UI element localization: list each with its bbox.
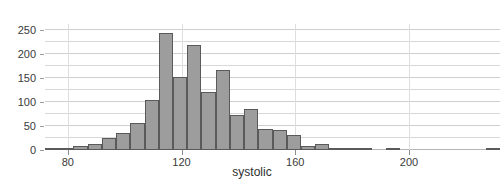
histogram-bar — [88, 144, 102, 150]
gridline-y-minor-75 — [45, 113, 500, 114]
gridline-y-100 — [45, 101, 500, 102]
histogram-bar — [329, 148, 343, 150]
histogram-bar — [486, 148, 500, 150]
histogram-bar — [45, 148, 59, 150]
histogram-bar — [287, 135, 301, 150]
x-tick-mark-160 — [295, 150, 296, 155]
gridline-y-150 — [45, 77, 500, 78]
x-axis-title: systolic — [0, 165, 504, 179]
gridline-y-50 — [45, 125, 500, 126]
histogram-bar — [173, 77, 187, 150]
x-tick-label-120: 120 — [172, 156, 190, 168]
x-tick-label-200: 200 — [400, 156, 418, 168]
y-tick-mark-150 — [40, 78, 44, 79]
y-tick-mark-100 — [40, 102, 44, 103]
y-tick-label-200: 200 — [2, 48, 36, 60]
histogram-bar — [244, 109, 258, 150]
y-tick-mark-200 — [40, 54, 44, 55]
x-tick-mark-200 — [409, 150, 410, 155]
histogram-bar — [201, 92, 215, 150]
histogram-bar — [301, 146, 315, 150]
y-tick-mark-50 — [40, 126, 44, 127]
histogram-bar — [102, 138, 116, 150]
histogram-bar — [159, 33, 173, 150]
histogram-bar — [258, 129, 272, 150]
y-tick-mark-250 — [40, 30, 44, 31]
x-tick-mark-120 — [182, 150, 183, 155]
gridline-y-minor-225 — [45, 41, 500, 42]
histogram-bar — [116, 133, 130, 150]
x-tick-label-80: 80 — [62, 156, 74, 168]
histogram-bar — [273, 130, 287, 150]
histogram-bar — [130, 123, 144, 150]
histogram-bar — [73, 146, 87, 150]
gridline-y-250 — [45, 29, 500, 30]
y-tick-label-150: 150 — [2, 72, 36, 84]
histogram-bar — [145, 100, 159, 150]
x-tick-label-160: 160 — [286, 156, 304, 168]
x-tick-mark-80 — [68, 150, 69, 155]
y-tick-label-100: 100 — [2, 96, 36, 108]
histogram-bar — [315, 144, 329, 150]
gridline-x-160 — [295, 24, 296, 150]
histogram-bar — [358, 148, 372, 150]
y-tick-label-50: 50 — [2, 120, 36, 132]
y-tick-label-250: 250 — [2, 24, 36, 36]
gridline-y-minor-125 — [45, 89, 500, 90]
histogram-bar — [59, 148, 73, 150]
histogram-chart: count systolic 0501001502002508012016020… — [0, 0, 504, 185]
histogram-bar — [230, 115, 244, 150]
y-tick-label-0: 0 — [2, 144, 36, 156]
histogram-bar — [386, 148, 400, 150]
gridline-y-minor-175 — [45, 65, 500, 66]
gridline-x-80 — [68, 24, 69, 150]
gridline-y-200 — [45, 53, 500, 54]
y-tick-mark-0 — [40, 150, 44, 151]
gridline-x-200 — [409, 24, 410, 150]
histogram-bar — [187, 45, 201, 150]
histogram-bar — [344, 148, 358, 150]
plot-area — [45, 24, 500, 150]
histogram-bar — [216, 70, 230, 150]
